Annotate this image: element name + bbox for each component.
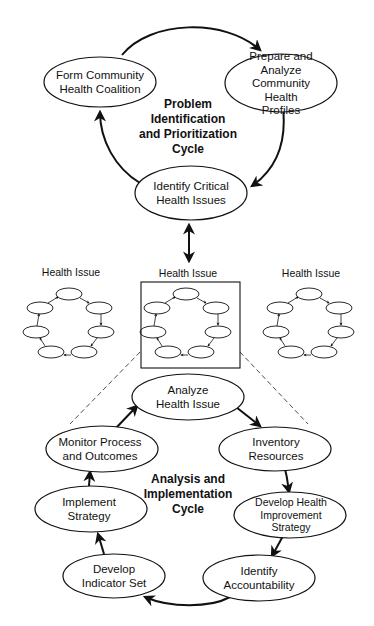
health-issue-label-right: Health Issue (282, 267, 340, 279)
label-form-coalition: Form Community Health Coalition (56, 69, 144, 96)
label-analyze-issue: Analyze Health Issue (156, 384, 220, 411)
label-develop-strategy: Develop Health Improvement Strategy (250, 496, 333, 534)
arrow-indicator-to-implement (98, 534, 104, 554)
label-develop-indicator: Develop Indicator Set (82, 563, 147, 590)
top-cycle-title: Problem Identification and Prioritizatio… (139, 97, 237, 157)
label-monitor-process: Monitor Process and Outcomes (58, 436, 141, 463)
label-identify-issues: Identify Critical Health Issues (153, 180, 228, 207)
bottom-cycle-title: Analysis and Implementation Cycle (144, 472, 233, 517)
label-inventory-resources: Inventory Resources (227, 436, 325, 463)
zoom-line-right (240, 352, 308, 424)
arrow-identify-to-indicator (145, 597, 230, 605)
arrow-monitor-to-analyze (116, 406, 137, 428)
health-issue-label-center: Health Issue (159, 267, 217, 279)
health-issue-label-left: Health Issue (42, 266, 100, 278)
arrow-prepare-to-identify (252, 108, 284, 186)
arrow-inventory-to-develop (285, 469, 289, 492)
mini-cycle-right (263, 288, 354, 358)
arrow-identify-to-form (100, 112, 140, 183)
arrow-analyze-to-inventory (236, 407, 260, 426)
arrow-implement-to-monitor (89, 472, 90, 486)
mini-cycle-center (140, 288, 231, 358)
label-implement-strategy: Implement Strategy (62, 496, 116, 523)
label-prepare-profiles: Prepare and Analyze Community Health Pro… (235, 50, 328, 118)
label-identify-accountability: Identify Accountability (224, 565, 295, 592)
arrow-develop-to-identify (272, 536, 283, 556)
diagram-canvas: Form Community Health Coalition Prepare … (0, 0, 374, 626)
mini-cycle-left (23, 288, 114, 358)
